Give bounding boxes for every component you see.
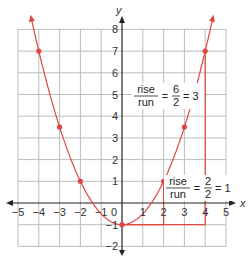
y-tick-label: 5 <box>112 89 118 101</box>
curve-arrow-icon <box>29 15 35 22</box>
x-tick-label: 2 <box>161 206 167 218</box>
parabola-chart: −5−4−3−2−1012345−2−112345678 riserun=62=… <box>0 0 251 256</box>
denominator: 2 <box>173 96 179 108</box>
y-tick-label: 4 <box>112 110 118 122</box>
x-tick-label: −1 <box>95 206 108 218</box>
x-tick-label: 0 <box>111 206 117 218</box>
numerator: 2 <box>205 175 211 187</box>
x-axis-label: x <box>239 197 246 209</box>
y-tick-label: 1 <box>112 175 118 187</box>
equals-sign: = <box>194 182 200 194</box>
y-tick-label: −1 <box>105 219 118 231</box>
y-tick-label: 3 <box>112 132 118 144</box>
data-point <box>119 222 124 227</box>
numerator: 6 <box>173 83 179 95</box>
y-tick-label: 8 <box>112 23 118 35</box>
y-tick-label: 6 <box>112 67 118 79</box>
rise-label: rise <box>137 83 155 95</box>
x-tick-label: −4 <box>33 206 46 218</box>
data-point <box>57 124 62 129</box>
x-tick-label: 1 <box>140 206 146 218</box>
data-point <box>36 49 41 54</box>
data-point <box>78 179 83 184</box>
x-tick-label: −2 <box>74 206 87 218</box>
x-tick-label: 4 <box>202 206 208 218</box>
y-axis-arrow-up-icon <box>119 16 125 23</box>
rise-label: rise <box>169 175 187 187</box>
result: = 1 <box>215 182 231 194</box>
data-point <box>182 124 187 129</box>
curve-arrow-icon <box>209 15 215 22</box>
data-point <box>203 49 208 54</box>
run-label: run <box>138 96 154 108</box>
y-axis-label: y <box>115 4 123 16</box>
y-tick-label: 7 <box>112 45 118 57</box>
x-tick-label: −5 <box>12 206 25 218</box>
y-axis-arrow-down-icon <box>119 250 125 256</box>
y-tick-label: 2 <box>112 154 118 166</box>
denominator: 2 <box>205 188 211 200</box>
result: = 3 <box>183 90 199 102</box>
run-label: run <box>170 188 186 200</box>
y-tick-label: −2 <box>105 240 118 252</box>
equals-sign: = <box>162 90 168 102</box>
x-tick-label: 5 <box>223 206 229 218</box>
x-tick-label: −3 <box>53 206 66 218</box>
x-tick-label: 3 <box>181 206 187 218</box>
